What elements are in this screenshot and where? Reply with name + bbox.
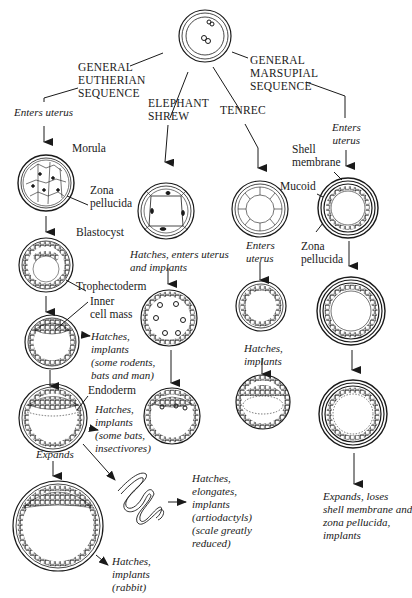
tenrec-implanting-icon	[236, 281, 286, 331]
mucoid-label: Mucoid	[280, 180, 316, 193]
elongated-blastocyst-icon	[118, 473, 164, 524]
zygote-icon	[179, 10, 231, 62]
outcome-rabbit: Hatches, implants (rabbit)	[112, 555, 151, 594]
eutherian-sequence-title: GENERAL EUTHERIAN SEQUENCE	[78, 61, 146, 100]
blastocyst-label: Blastocyst	[76, 226, 124, 239]
endoderm-label: Endoderm	[88, 384, 136, 397]
outcome-rodents: Hatches, implants (some rodents, bats an…	[91, 330, 155, 382]
morula-icon	[18, 155, 74, 211]
elephant-shrew-blastocyst-icon	[138, 183, 194, 239]
marsupial-sequence-title: GENERAL MARSUPIAL SEQUENCE	[250, 54, 318, 93]
expanded-blastocyst-icon	[13, 481, 103, 571]
marsupial-outcome: Expands, loses shell membrane and zona p…	[323, 490, 412, 542]
expands-label: Expands	[36, 448, 74, 461]
elephant-shrew-note: Hatches, enters uterus and implants	[130, 248, 229, 274]
tenrec-late-icon	[236, 375, 290, 429]
morula-label: Morula	[72, 142, 106, 155]
inner-cell-mass-label: Inner cell mass	[90, 295, 132, 321]
marsupial-stage3-icon	[319, 380, 387, 448]
elephant-shrew-late-icon	[144, 388, 200, 444]
zona-pellucida-marsupial-label: Zona pellucida	[301, 240, 343, 266]
shell-membrane-label: Shell membrane	[292, 143, 341, 169]
outcome-artiodactyls: Hatches, elongates, implants (artiodacty…	[192, 472, 252, 550]
tenrec-title: TENREC	[220, 104, 266, 117]
elephant-shrew-title: ELEPHANT SHREW	[148, 97, 209, 123]
inner-cell-mass-icon	[25, 315, 79, 369]
marsupial-stage2-icon	[317, 277, 385, 345]
tenrec-note: Hatches, implants	[244, 342, 283, 368]
marsupial-egg-icon	[318, 178, 378, 238]
trophectoderm-label: Trophectoderm	[76, 280, 146, 293]
tenrec-enters-uterus: Enters uterus	[246, 239, 275, 265]
eutherian-enters-uterus: Enters uterus	[14, 106, 73, 119]
outcome-bats: Hatches, implants (some bats, insectivor…	[95, 403, 151, 455]
blastocyst-icon	[19, 238, 73, 292]
zona-pellucida-label: Zona pellucida	[90, 184, 132, 210]
endoderm-icon	[19, 384, 87, 452]
